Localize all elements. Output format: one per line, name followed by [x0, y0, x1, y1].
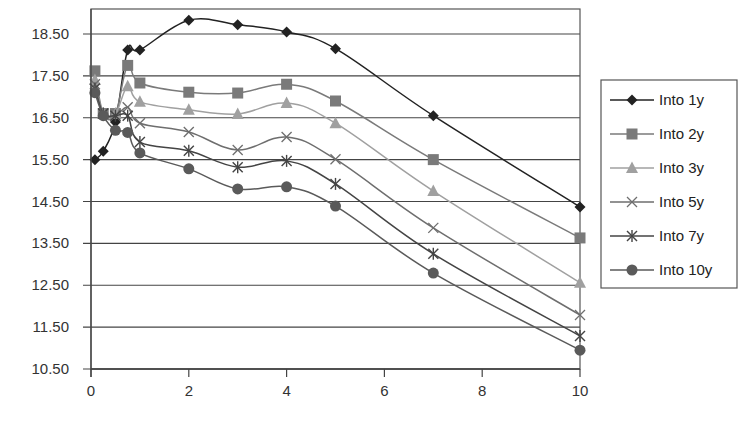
- square-marker: [627, 129, 638, 140]
- diamond-marker: [281, 26, 292, 37]
- line-chart: 10.5011.5012.5013.5014.5015.5016.5017.50…: [0, 0, 747, 426]
- x-axis: 0246810: [87, 369, 589, 399]
- y-tick-label: 10.50: [31, 360, 69, 377]
- y-tick-label: 13.50: [31, 234, 69, 251]
- square-marker: [575, 232, 586, 243]
- y-tick-label: 14.50: [31, 193, 69, 210]
- x-tick-label: 6: [380, 382, 388, 399]
- square-marker: [281, 79, 292, 90]
- x-tick-label: 2: [185, 382, 193, 399]
- triangle-marker: [574, 276, 586, 288]
- x-marker: [135, 118, 145, 128]
- series-line: [95, 64, 580, 238]
- triangle-marker: [330, 117, 342, 129]
- x-tick-label: 8: [478, 382, 486, 399]
- square-marker: [183, 87, 194, 98]
- legend-label: Into 10y: [659, 261, 713, 278]
- diamond-marker: [134, 44, 145, 55]
- legend-label: Into 2y: [659, 125, 705, 142]
- x-tick-label: 0: [87, 382, 95, 399]
- y-tick-label: 17.50: [31, 67, 69, 84]
- diamond-marker: [232, 19, 243, 30]
- star-marker: [575, 330, 585, 342]
- circle-marker: [575, 345, 586, 356]
- circle-marker: [134, 147, 145, 158]
- triangle-marker: [134, 95, 146, 107]
- triangle-marker: [427, 185, 439, 197]
- diamond-marker: [428, 110, 439, 121]
- circle-marker: [110, 125, 121, 136]
- circle-marker: [281, 181, 292, 192]
- y-tick-label: 18.50: [31, 25, 69, 42]
- x-tick-label: 4: [282, 382, 290, 399]
- circle-marker: [627, 265, 638, 276]
- x-marker: [184, 127, 194, 137]
- diamond-marker: [183, 15, 194, 26]
- x-marker: [428, 223, 438, 233]
- star-marker: [428, 248, 438, 260]
- y-tick-label: 16.50: [31, 109, 69, 126]
- y-tick-label: 15.50: [31, 151, 69, 168]
- circle-marker: [330, 201, 341, 212]
- legend-box: [601, 80, 737, 288]
- series-into-5y: [90, 79, 585, 320]
- square-marker: [428, 154, 439, 165]
- circle-marker: [428, 268, 439, 279]
- y-tick-label: 11.50: [33, 318, 69, 335]
- x-tick-label: 10: [572, 382, 589, 399]
- legend-label: Into 1y: [659, 91, 705, 108]
- y-tick-label: 12.50: [31, 276, 69, 293]
- series-lines: [89, 15, 586, 356]
- square-marker: [122, 60, 133, 71]
- diamond-marker: [98, 146, 109, 157]
- square-marker: [232, 88, 243, 99]
- star-marker: [331, 178, 341, 190]
- circle-marker: [232, 183, 243, 194]
- legend-label: Into 5y: [659, 193, 705, 210]
- series-line: [95, 93, 580, 351]
- circle-marker: [98, 110, 109, 121]
- star-marker: [135, 136, 145, 148]
- legend: Into 1yInto 2yInto 3yInto 5yInto 7yInto …: [601, 80, 737, 288]
- legend-label: Into 3y: [659, 159, 705, 176]
- circle-marker: [122, 127, 133, 138]
- diamond-marker: [330, 43, 341, 54]
- star-marker: [123, 110, 133, 122]
- diamond-marker: [575, 201, 586, 212]
- square-marker: [134, 77, 145, 88]
- square-marker: [330, 96, 341, 107]
- star-marker: [184, 145, 194, 157]
- gridlines: [83, 34, 580, 369]
- y-axis: 10.5011.5012.5013.5014.5015.5016.5017.50…: [31, 9, 91, 377]
- series-into-2y: [89, 60, 585, 244]
- legend-label: Into 7y: [659, 227, 705, 244]
- circle-marker: [183, 163, 194, 174]
